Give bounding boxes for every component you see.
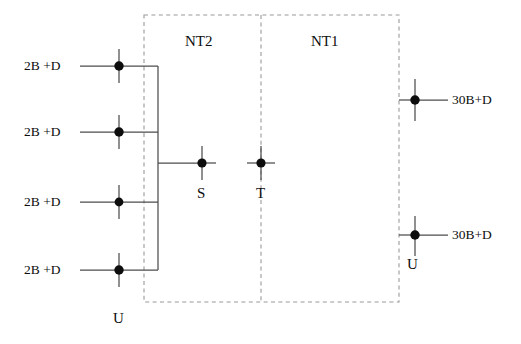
input-label-1: 2B +D: [24, 59, 61, 73]
junction-dot-t: [256, 158, 265, 167]
reference-label-u-right: U: [407, 257, 418, 272]
output-lines-group: [399, 79, 448, 256]
junction-dot-output-2: [410, 230, 419, 239]
output-label-2: 30B+D: [452, 228, 492, 242]
s-reference-group: [158, 146, 216, 180]
junction-dot-output-1: [410, 95, 419, 104]
junction-dot-input-1: [114, 61, 123, 70]
junction-dot-input-2: [114, 127, 123, 136]
input-label-2: 2B +D: [24, 125, 61, 139]
reference-label-u-left: U: [113, 311, 124, 326]
reference-label-s: S: [197, 186, 205, 201]
junction-dot-s: [197, 158, 206, 167]
diagram-svg: [0, 0, 521, 344]
zone-label-nt1: NT1: [311, 34, 339, 49]
enclosure-outline: [144, 15, 399, 302]
junction-dot-input-4: [114, 265, 123, 274]
reference-label-t: T: [256, 186, 265, 201]
diagram-canvas: NT2 NT1 2B +D 2B +D 2B +D 2B +D 30B+D 30…: [0, 0, 521, 344]
zone-label-nt2: NT2: [185, 34, 213, 49]
junction-dots-group: [114, 61, 419, 274]
dashed-enclosure: [144, 15, 399, 302]
input-label-4: 2B +D: [24, 263, 61, 277]
output-label-1: 30B+D: [452, 93, 492, 107]
junction-dot-input-3: [115, 198, 124, 207]
input-lines-group: [80, 49, 158, 287]
input-label-3: 2B +D: [24, 195, 61, 209]
